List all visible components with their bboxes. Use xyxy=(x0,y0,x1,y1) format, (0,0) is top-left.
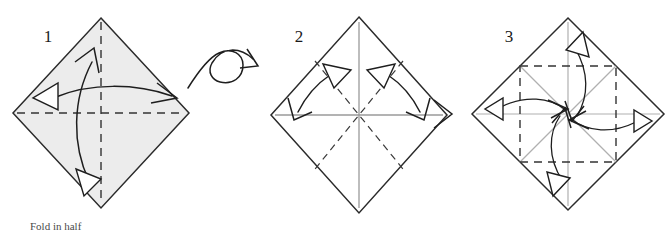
diagram-canvas: 1 2 xyxy=(0,0,671,231)
step-number-2: 2 xyxy=(295,27,304,46)
turnover-loop-path xyxy=(188,50,253,88)
step-3-group: 3 xyxy=(472,18,664,210)
step-number-3: 3 xyxy=(505,27,514,46)
step-number-1: 1 xyxy=(44,27,53,46)
figure-caption: Fold in half xyxy=(30,220,82,231)
step-1-group: 1 xyxy=(13,18,189,208)
step-2-group: 2 xyxy=(271,17,447,213)
origami-diagram: 1 2 xyxy=(0,0,671,231)
turn-over-symbol xyxy=(188,49,258,88)
